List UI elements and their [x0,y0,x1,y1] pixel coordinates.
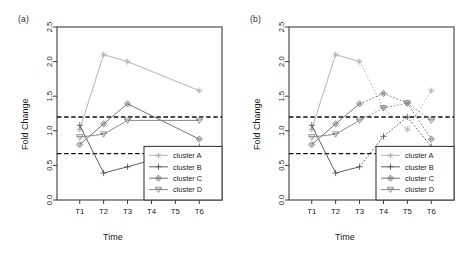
series-segment [383,108,407,129]
series-segment [80,55,104,130]
series-segment [336,167,360,173]
legend-label: cluster D [173,185,202,194]
x-tick-label: T3 [123,207,132,216]
series-segment [104,167,128,173]
y-tick-label: 2.5 [45,22,54,33]
series-segment [128,104,200,139]
y-tick-label: 0.0 [277,195,286,206]
y-tick-label: 1.0 [45,126,54,137]
series-cluster-a [309,52,435,133]
series-segment [360,62,384,108]
series-cluster-c [309,90,435,147]
x-tick-label: T2 [331,207,340,216]
x-tick-label: T1 [75,207,84,216]
series-segment [407,91,431,130]
series-segment [104,104,128,124]
diamond-marker [428,136,434,142]
x-tick-label: T3 [355,207,364,216]
x-tick-label: T4 [379,207,389,216]
series-segment [104,120,128,134]
triangle-down-marker [77,135,83,140]
series-segment [128,62,200,91]
series-cluster-d [308,101,435,140]
legend-label: cluster B [405,163,434,172]
series-segment [336,55,360,62]
series-segment [360,108,384,120]
legend-label: cluster D [405,185,434,194]
triangle-down-marker [309,135,315,140]
series-segment [104,55,128,62]
panel-a-plot: 0.00.51.01.52.02.5T1T2T3T4T5T6cluster Ac… [0,0,232,255]
x-tick-label: T5 [171,207,181,216]
series-cluster-d [76,118,203,140]
series-cluster-c [77,101,203,148]
legend-label: cluster C [405,174,435,183]
series-segment [383,117,407,136]
y-tick-label: 1.5 [45,91,54,102]
x-tick-label: T2 [99,207,108,216]
legend-label: cluster B [173,163,202,172]
series-segment [407,103,431,139]
y-tick-label: 1.5 [277,91,286,102]
diamond-marker [430,138,432,140]
y-tick-label: 0.0 [45,195,54,206]
y-tick-label: 2.0 [277,56,286,67]
x-tick-label: T6 [427,207,436,216]
diamond-marker [79,143,81,145]
triangle-down-marker [428,118,434,123]
x-tick-label: T4 [147,207,157,216]
panel-b-plot: 0.00.51.01.52.02.5T1T2T3T4T5T6cluster Ac… [232,0,464,255]
x-tick-label: T1 [307,207,316,216]
series-segment [312,55,336,130]
x-tick-label: T5 [403,207,413,216]
legend-label: cluster A [173,151,201,160]
y-tick-label: 2.5 [277,22,286,33]
legend-label: cluster A [405,151,433,160]
series-segment [336,104,360,124]
series-segment [80,125,104,173]
diamond-marker [198,138,200,140]
y-tick-label: 0.5 [45,160,54,171]
legend-label: cluster C [173,174,203,183]
legend: cluster Acluster Bcluster Ccluster D [144,146,222,200]
x-tick-label: T6 [195,207,204,216]
panel-a: (a) Fold Change Time 0.00.51.01.52.02.5T… [0,0,232,255]
y-tick-label: 2.0 [45,56,54,67]
series-segment [312,125,336,173]
series-segment [383,93,407,103]
series-segment [360,93,384,103]
series-segment [336,120,360,134]
y-tick-label: 0.5 [277,160,286,171]
figure-container: (a) Fold Change Time 0.00.51.01.52.02.5T… [0,0,464,255]
panel-b: (b) Fold Change Time 0.00.51.01.52.02.5T… [232,0,464,255]
y-tick-label: 1.0 [277,126,286,137]
legend: cluster Acluster Bcluster Ccluster D [376,146,454,200]
